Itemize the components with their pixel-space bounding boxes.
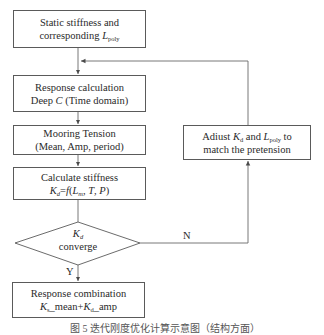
edge-label-yes: Y: [66, 266, 74, 277]
text: _mean+: [50, 301, 84, 312]
node-response-calculation: Response calculation Deep C (Time domain…: [13, 75, 146, 112]
formula: Kd: [40, 227, 116, 240]
node-line: Response calculation: [35, 81, 124, 94]
node-calculate-stiffness: Calculate stiffness Kd=f(Lm, T, P): [13, 167, 146, 200]
var: K: [73, 228, 80, 239]
text: to: [281, 131, 292, 142]
text: and: [243, 131, 263, 142]
text: Adiust: [202, 131, 233, 142]
var: K: [40, 301, 47, 312]
node-converge-decision: Kd converge: [40, 227, 116, 253]
node-adjust: Adiust Kd and Lpoly to match the pretens…: [183, 125, 311, 160]
node-line: (Mean, Amp, period): [35, 140, 124, 153]
node-line: Calculate stiffness: [41, 171, 118, 184]
node-line: corresponding Lpoly: [39, 29, 119, 42]
text: _amp: [94, 301, 117, 312]
text: (Time domain): [63, 95, 129, 106]
figure-caption: 图 5 迭代刚度优化计算示意图（结构方面）: [40, 320, 290, 332]
node-response-combination: Response combination Ks_mean+Kd_amp: [12, 282, 145, 318]
node-line: converge: [40, 240, 116, 253]
text: ): [106, 185, 110, 196]
formula: Ks_mean+Kd_amp: [40, 300, 117, 313]
text: corresponding: [39, 30, 102, 41]
var: K: [233, 131, 240, 142]
node-line: Mooring Tension: [43, 127, 115, 140]
edge-label-no: N: [183, 230, 191, 241]
formula: Kd=f(Lm, T, P): [50, 184, 109, 197]
node-line: Response combination: [31, 287, 126, 300]
subscript: poly: [108, 35, 120, 42]
var: C: [56, 95, 63, 106]
subscript: poly: [269, 136, 281, 143]
node-mooring-tension: Mooring Tension (Mean, Amp, period): [13, 125, 146, 155]
node-line: match the pretension: [203, 143, 290, 156]
subscript: d: [80, 233, 83, 240]
node-line: Adiust Kd and Lpoly to: [202, 130, 292, 143]
node-line: Deep C (Time domain): [31, 94, 128, 107]
node-static-stiffness: Static stiffness and corresponding Lpoly: [13, 10, 146, 48]
var: K: [50, 185, 57, 196]
node-line: Static stiffness and: [40, 16, 119, 29]
text: Deep: [31, 95, 56, 106]
